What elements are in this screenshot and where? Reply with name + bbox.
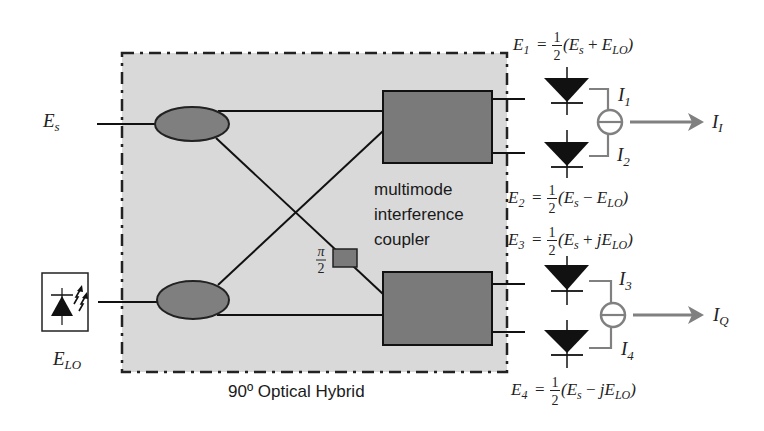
- equation-e1: E1 = 1 2 (Es + ELO): [512, 30, 634, 63]
- svg-text:interference: interference: [374, 205, 464, 224]
- phase-shifter: [333, 249, 357, 267]
- current-label-i1: I1: [617, 84, 631, 109]
- arrow-icon-upper: [630, 113, 704, 131]
- svg-text:(Es + jELO): (Es + jELO): [558, 230, 633, 252]
- arrow-icon-lower: [633, 306, 704, 324]
- svg-text:(Es − ELO): (Es − ELO): [558, 188, 629, 210]
- mmi-coupler-lower: [383, 272, 492, 345]
- svg-text:1: 1: [549, 225, 556, 240]
- hybrid-caption: 90º Optical Hybrid: [228, 382, 365, 401]
- svg-text:1: 1: [552, 375, 559, 390]
- photodiode-1: [544, 67, 589, 115]
- signal-splitter: [155, 107, 229, 141]
- svg-text:E1: E1: [512, 35, 529, 57]
- svg-text:=: =: [535, 380, 545, 399]
- current-label-i2: I2: [616, 144, 630, 169]
- svg-text:E4: E4: [510, 380, 527, 402]
- svg-text:π: π: [317, 244, 325, 259]
- optical-hybrid-diagram: π 2 multimode interference coupler 90º O…: [0, 0, 764, 431]
- lo-label: ELO: [52, 348, 82, 372]
- laser-diode-icon: [42, 273, 88, 331]
- current-label-i3: I3: [618, 268, 632, 293]
- svg-text:=: =: [532, 188, 542, 207]
- photodiode-3: [544, 256, 589, 305]
- equation-e3: E3 = 1 2 (Es + jELO): [507, 225, 633, 258]
- lo-splitter: [157, 281, 229, 319]
- current-source-icon-lower: [601, 303, 625, 327]
- svg-text:2: 2: [318, 261, 325, 276]
- svg-text:2: 2: [552, 393, 559, 408]
- svg-text:coupler: coupler: [374, 230, 430, 249]
- photodiode-4: [544, 320, 589, 368]
- equation-e4: E4 = 1 2 (Es − jELO): [510, 375, 636, 408]
- photodiode-2: [544, 130, 589, 178]
- svg-text:=: =: [537, 35, 547, 54]
- svg-text:=: =: [532, 230, 542, 249]
- svg-text:1: 1: [549, 183, 556, 198]
- wire-i1: [589, 89, 608, 110]
- wire-i4: [589, 327, 611, 348]
- svg-text:(Es − jELO): (Es − jELO): [561, 380, 636, 402]
- current-source-icon-upper: [598, 110, 622, 134]
- svg-text:2: 2: [554, 48, 561, 63]
- svg-text:E3: E3: [507, 230, 524, 252]
- svg-text:2: 2: [549, 201, 556, 216]
- svg-text:multimode: multimode: [374, 180, 452, 199]
- wire-i2: [589, 134, 608, 156]
- svg-text:(Es + ELO): (Es + ELO): [563, 35, 634, 57]
- mmi-coupler-upper: [383, 91, 492, 163]
- svg-text:2: 2: [549, 243, 556, 258]
- output-label-in-phase: II: [711, 111, 723, 135]
- output-label-quadrature: IQ: [712, 304, 729, 328]
- svg-text:1: 1: [554, 30, 561, 45]
- svg-text:E2: E2: [507, 188, 524, 210]
- current-label-i4: I4: [620, 338, 634, 363]
- wire-i3: [589, 281, 611, 303]
- signal-label: Es: [42, 110, 60, 134]
- equation-e2: E2 = 1 2 (Es − ELO): [507, 183, 629, 216]
